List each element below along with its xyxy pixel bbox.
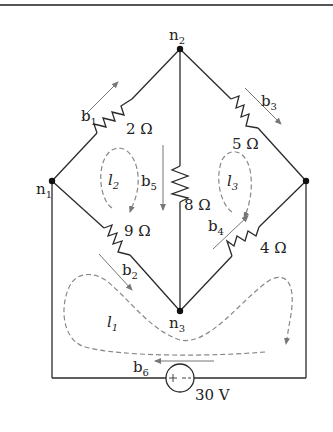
resistor-label-5ohm: 5 Ω (232, 135, 259, 153)
loop-l2 (101, 148, 138, 212)
resistor-label-2ohm: 2 Ω (126, 120, 153, 138)
source-label: 30 V (195, 386, 231, 404)
branch-label-b5: b5 (141, 172, 157, 192)
node-label-n2: n2 (169, 26, 185, 46)
branch-label-b2: b2 (122, 261, 138, 281)
resistor-label-8ohm: 8 Ω (184, 196, 211, 214)
loop-label-l1: l1 (107, 313, 118, 333)
branch-label-b1: b1 (81, 107, 97, 127)
voltage-source (166, 364, 194, 392)
node-n1 (49, 178, 55, 184)
node-label-n3: n3 (169, 314, 185, 334)
loop-label-l2: l2 (108, 171, 119, 191)
circuit-diagram: n1 n2 n3 2 Ω 5 Ω 8 Ω 9 Ω 4 Ω b1 b2 b3 b4… (0, 0, 333, 432)
node-right (303, 178, 309, 184)
resistor-label-4ohm: 4 Ω (260, 239, 287, 257)
branch-label-b6: b6 (133, 358, 149, 378)
branch-label-b3: b3 (261, 92, 277, 112)
loop-label-l3: l3 (227, 172, 238, 192)
node-n2 (177, 46, 183, 52)
resistor-5ohm (231, 96, 258, 128)
resistor-label-9ohm: 9 Ω (124, 222, 151, 240)
branch-label-b4: b4 (208, 217, 224, 237)
